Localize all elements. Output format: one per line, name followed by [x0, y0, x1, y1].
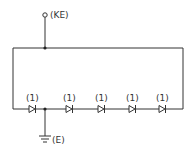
junction-dot-top — [43, 46, 46, 49]
ground-icon — [39, 136, 51, 142]
diode-icon — [159, 105, 166, 113]
ground-label: (E) — [52, 135, 65, 145]
diode-icon — [66, 105, 73, 113]
ke-terminal-label: (KE) — [50, 10, 69, 20]
diode-icon — [98, 105, 105, 113]
diode-label: (1) — [156, 93, 169, 103]
diode-label: (1) — [95, 93, 108, 103]
junction-dot-bottom — [43, 107, 46, 110]
circuit-diagram: (KE) (E) (1) (1) (1) (1) (1) — [0, 0, 193, 157]
diode-label: (1) — [126, 93, 139, 103]
diode-label: (1) — [26, 93, 39, 103]
diode-icon — [129, 105, 136, 113]
ke-terminal-icon — [43, 13, 47, 17]
diode-icon — [29, 105, 36, 113]
diode-label: (1) — [63, 93, 76, 103]
